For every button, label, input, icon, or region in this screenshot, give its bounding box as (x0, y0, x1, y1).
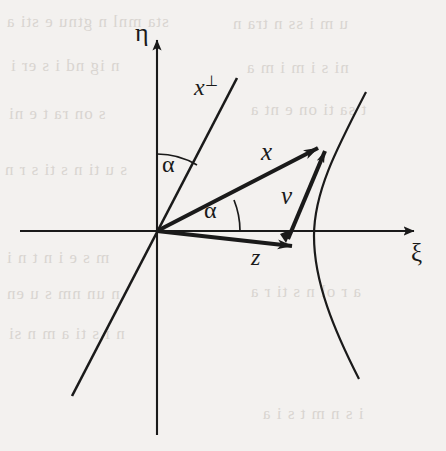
vector-x-label: x (261, 139, 272, 164)
x-perp-label: x⊥ (194, 74, 218, 99)
hyperbola-branch (314, 92, 366, 379)
vector-geometry-figure: sta mnl n gtnu e sti a u m i ss n tra n … (0, 0, 446, 451)
angle-arc-alpha-lower (234, 200, 240, 231)
vector-z-label: z (251, 245, 260, 269)
angle-alpha-lower-label: α (204, 198, 217, 222)
eta-axis-label: η (135, 20, 149, 46)
angle-alpha-upper-label: α (162, 152, 175, 176)
x-perp-label-base: x (194, 74, 205, 100)
perpendicular-icon: ⊥ (205, 73, 218, 89)
diagram-canvas (0, 0, 446, 451)
vector-z (157, 231, 292, 246)
vector-x (157, 148, 318, 231)
xi-axis-label: ξ (411, 240, 422, 265)
vector-v-label: v (281, 183, 292, 208)
